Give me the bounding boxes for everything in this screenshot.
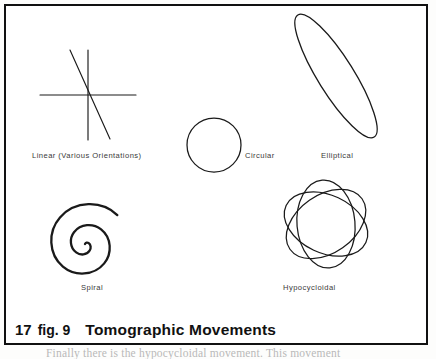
body-text-clipped: Finally there is the hypocycloidal movem… [46,347,426,359]
figure-illustration [6,6,426,343]
shape-label-elliptical: Elliptical [321,152,353,160]
page-canvas: Linear (Various Orientations) Circular E… [0,0,436,359]
shape-circular [187,118,241,172]
figure-caption: 17 fig. 9 Tomographic Movements [15,321,276,339]
shape-label-spiral: Spiral [81,284,103,292]
caption-figure-label: fig. 9 [38,322,71,338]
shape-spiral [51,204,117,273]
shape-linear [40,50,136,140]
shape-label-linear: Linear (Various Orientations) [32,152,142,160]
shape-label-hypocycloidal: Hypocycloidal [283,284,336,292]
caption-title: Tomographic Movements [85,321,276,339]
shape-hypocycloidal [273,175,378,273]
shape-elliptical [283,6,390,147]
figure-frame: Linear (Various Orientations) Circular E… [4,4,428,345]
shape-label-circular: Circular [245,152,275,160]
caption-page-number: 17 [15,321,32,338]
